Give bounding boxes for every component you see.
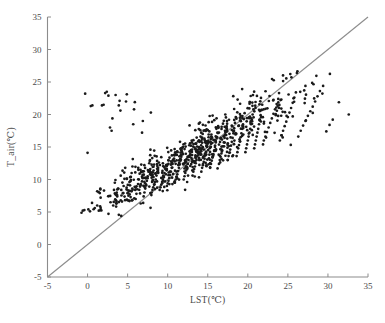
data-point bbox=[268, 95, 271, 98]
data-point bbox=[251, 104, 254, 107]
data-point bbox=[206, 140, 209, 143]
data-point bbox=[258, 108, 261, 111]
data-point bbox=[302, 124, 305, 127]
data-point bbox=[217, 127, 220, 130]
data-point bbox=[305, 119, 308, 122]
data-point bbox=[276, 109, 279, 112]
data-point bbox=[182, 163, 185, 166]
data-point bbox=[291, 115, 294, 118]
data-point bbox=[109, 195, 112, 198]
data-point bbox=[290, 76, 293, 79]
data-point bbox=[226, 143, 229, 146]
data-point bbox=[160, 156, 163, 159]
data-point bbox=[154, 188, 157, 191]
data-point bbox=[184, 145, 187, 148]
data-point bbox=[121, 181, 124, 184]
data-point bbox=[213, 119, 216, 122]
data-point bbox=[165, 165, 168, 168]
data-point bbox=[80, 211, 83, 214]
data-point bbox=[148, 160, 151, 163]
data-point bbox=[126, 184, 129, 187]
data-point bbox=[281, 136, 284, 139]
data-point bbox=[251, 134, 254, 137]
data-point bbox=[207, 136, 210, 139]
data-point bbox=[254, 107, 257, 110]
data-point bbox=[200, 170, 203, 173]
data-point bbox=[165, 169, 168, 172]
data-point bbox=[156, 180, 159, 183]
x-tick-label: 10 bbox=[163, 281, 173, 291]
data-point bbox=[141, 170, 144, 173]
data-point bbox=[209, 138, 212, 141]
data-point bbox=[151, 157, 154, 160]
data-point bbox=[262, 139, 265, 142]
data-point bbox=[92, 208, 95, 211]
data-point bbox=[143, 185, 146, 188]
data-point bbox=[247, 135, 250, 138]
data-point bbox=[204, 130, 207, 133]
data-point bbox=[107, 94, 110, 97]
x-tick-label: -5 bbox=[44, 281, 52, 291]
data-point bbox=[91, 202, 94, 205]
data-point bbox=[114, 94, 117, 97]
data-point bbox=[129, 196, 132, 199]
data-point bbox=[156, 165, 159, 168]
data-point bbox=[232, 95, 235, 98]
data-point bbox=[204, 162, 207, 165]
data-point bbox=[223, 145, 226, 148]
data-point bbox=[168, 177, 171, 180]
data-point bbox=[251, 129, 254, 132]
data-point bbox=[191, 166, 194, 169]
data-point bbox=[116, 188, 119, 191]
data-point bbox=[245, 125, 248, 128]
data-point bbox=[285, 115, 288, 118]
data-point bbox=[289, 73, 292, 76]
data-point bbox=[243, 112, 246, 115]
data-point bbox=[188, 124, 191, 127]
data-point bbox=[197, 153, 200, 156]
data-point bbox=[129, 176, 132, 179]
data-point bbox=[148, 162, 151, 165]
data-point bbox=[113, 189, 116, 192]
data-point bbox=[178, 155, 181, 158]
data-point bbox=[192, 139, 195, 142]
data-point bbox=[252, 94, 255, 97]
data-point bbox=[114, 193, 117, 196]
data-point bbox=[161, 172, 164, 175]
data-point bbox=[123, 195, 126, 198]
data-point bbox=[201, 141, 204, 144]
data-point bbox=[99, 192, 102, 195]
x-tick-label: 25 bbox=[283, 281, 293, 291]
data-point bbox=[272, 79, 275, 82]
data-point bbox=[245, 120, 248, 123]
data-point bbox=[137, 183, 140, 186]
data-point bbox=[153, 149, 156, 152]
data-point bbox=[228, 118, 231, 121]
data-point bbox=[282, 129, 285, 132]
data-point bbox=[137, 166, 140, 169]
data-point bbox=[239, 140, 242, 143]
data-point bbox=[217, 132, 220, 135]
data-point bbox=[112, 204, 115, 207]
data-point bbox=[115, 205, 118, 208]
data-point bbox=[167, 174, 170, 177]
data-point bbox=[176, 151, 179, 154]
data-point bbox=[271, 117, 274, 120]
data-point bbox=[204, 152, 207, 155]
data-point bbox=[222, 119, 225, 122]
data-point bbox=[153, 183, 156, 186]
data-point bbox=[225, 130, 228, 133]
data-point bbox=[236, 151, 239, 154]
data-point bbox=[321, 92, 324, 95]
data-point bbox=[134, 186, 137, 189]
data-point bbox=[201, 133, 204, 136]
y-tick-label: 15 bbox=[33, 142, 43, 152]
data-point bbox=[186, 181, 189, 184]
data-point bbox=[208, 158, 211, 161]
data-point bbox=[174, 169, 177, 172]
data-point bbox=[224, 113, 227, 116]
data-point bbox=[331, 118, 334, 121]
data-point bbox=[117, 214, 120, 217]
data-point bbox=[91, 104, 94, 107]
data-point bbox=[167, 162, 170, 165]
